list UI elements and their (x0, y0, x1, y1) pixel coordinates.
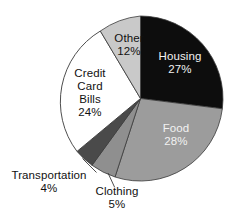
pie-label-credit-card-bills-line3: Bills (62, 93, 118, 106)
pie-label-food-value: 28% (150, 135, 202, 148)
pie-label-other: Other 12% (104, 32, 154, 58)
pie-label-clothing-value: 5% (86, 198, 148, 211)
pie-label-transportation: Transportation 4% (2, 169, 96, 195)
pie-chart: Housing 27% Food 28% Other 12% Credit Ca… (0, 0, 241, 218)
pie-label-credit-card-bills: Credit Card Bills 24% (62, 67, 118, 119)
pie-label-transportation-name: Transportation (2, 169, 96, 182)
pie-label-credit-card-bills-line1: Credit (62, 67, 118, 80)
pie-label-transportation-value: 4% (2, 182, 96, 195)
pie-label-food: Food 28% (150, 122, 202, 148)
pie-label-housing-value: 27% (146, 63, 214, 76)
pie-label-clothing-name: Clothing (86, 185, 148, 198)
pie-label-other-name: Other (104, 32, 154, 45)
pie-label-housing-name: Housing (146, 50, 214, 63)
pie-label-clothing: Clothing 5% (86, 185, 148, 211)
pie-label-other-value: 12% (104, 45, 154, 58)
pie-label-food-name: Food (150, 122, 202, 135)
pie-label-credit-card-bills-value: 24% (62, 106, 118, 119)
pie-label-credit-card-bills-line2: Card (62, 80, 118, 93)
pie-label-housing: Housing 27% (146, 50, 214, 76)
